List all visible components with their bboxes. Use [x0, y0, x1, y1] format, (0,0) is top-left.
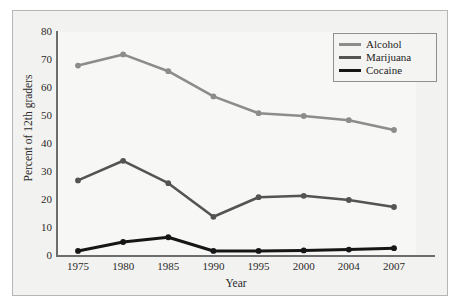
data-point: [391, 204, 397, 210]
data-point: [211, 214, 217, 220]
data-point: [301, 248, 307, 254]
legend-line-swatch: [339, 56, 361, 59]
chart-legend: AlcoholMarijuanaCocaine: [333, 33, 437, 82]
chart-figure: 01020304050607080 Percent of 12th grader…: [0, 0, 460, 307]
data-point: [391, 245, 397, 251]
legend-item-alcohol: Alcohol: [339, 38, 431, 51]
data-point: [120, 158, 126, 164]
data-point: [211, 94, 217, 100]
series-marijuana: [75, 158, 397, 220]
x-axis-tick-label: 2007: [371, 261, 417, 272]
data-point: [256, 194, 262, 200]
data-point: [165, 234, 171, 240]
data-point: [165, 180, 171, 186]
legend-item-marijuana: Marijuana: [339, 51, 431, 64]
x-axis-tick-label: 2004: [326, 261, 372, 272]
legend-item-label: Cocaine: [366, 65, 402, 76]
x-axis-tick-label: 1995: [236, 261, 282, 272]
data-point: [120, 239, 126, 245]
data-point: [256, 248, 262, 254]
data-point: [346, 197, 352, 203]
legend-line-swatch: [339, 43, 361, 46]
legend-item-label: Marijuana: [366, 52, 411, 63]
data-point: [75, 63, 81, 69]
legend-item-cocaine: Cocaine: [339, 64, 431, 77]
data-point: [165, 68, 171, 74]
data-point: [346, 117, 352, 123]
series-cocaine: [75, 234, 397, 254]
legend-line-swatch: [339, 69, 361, 72]
x-axis-tick-label: 1980: [100, 261, 146, 272]
data-point: [75, 248, 81, 254]
legend-item-label: Alcohol: [366, 39, 401, 50]
data-point: [211, 248, 217, 254]
x-axis-tick-label: 2000: [281, 261, 327, 272]
data-point: [391, 127, 397, 133]
data-point: [346, 247, 352, 253]
data-point: [301, 113, 307, 119]
x-axis-tick-label: 1985: [145, 261, 191, 272]
data-point: [256, 110, 262, 116]
x-axis-tick-label: 1990: [190, 261, 236, 272]
x-axis-tick-label: 1975: [55, 261, 101, 272]
series-line: [78, 161, 394, 217]
data-point: [301, 193, 307, 199]
data-point: [120, 52, 126, 58]
data-point: [75, 178, 81, 184]
